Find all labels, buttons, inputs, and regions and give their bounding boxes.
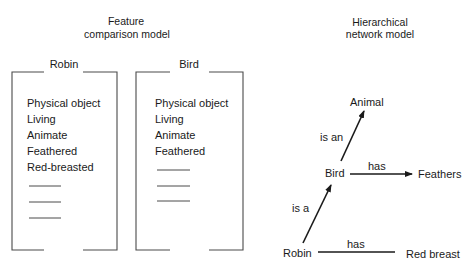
robin-feature-item: Physical object <box>27 97 100 110</box>
edge-label-is-a: is a <box>292 202 309 215</box>
feature-model-title-line2: comparison model <box>84 28 170 41</box>
network-model-title-line2: network model <box>346 28 414 41</box>
bird-feature-item: Feathered <box>155 145 205 158</box>
bird-concept-label: Bird <box>179 58 199 71</box>
node-red-breast: Red breast <box>406 248 460 261</box>
network-model-title-line1: Hierarchical <box>352 16 407 29</box>
robin-concept-label: Robin <box>50 58 79 71</box>
robin-feature-item: Animate <box>27 129 67 142</box>
robin-feature-item: Living <box>27 113 56 126</box>
robin-blank-feature-slots <box>29 186 61 218</box>
bird-feature-item: Living <box>155 113 184 126</box>
bird-feature-item: Physical object <box>155 97 228 110</box>
node-bird: Bird <box>325 167 345 180</box>
bird-feature-item: Animate <box>155 129 195 142</box>
bird-blank-feature-slots <box>157 170 190 201</box>
node-animal: Animal <box>350 96 384 109</box>
feature-model-title-line1: Feature <box>108 15 144 28</box>
edge-label-robin-has: has <box>347 238 365 251</box>
edge-bird-to-animal-arrow <box>341 111 364 161</box>
robin-feature-item: Red-breasted <box>27 161 94 174</box>
edge-label-is-an: is an <box>320 131 343 144</box>
robin-feature-item: Feathered <box>27 145 77 158</box>
edge-label-bird-has: has <box>368 160 386 173</box>
diagram-canvas: Feature comparison model Robin Bird Phys… <box>0 0 470 265</box>
node-robin: Robin <box>283 247 312 260</box>
node-feathers: Feathers <box>418 168 461 181</box>
